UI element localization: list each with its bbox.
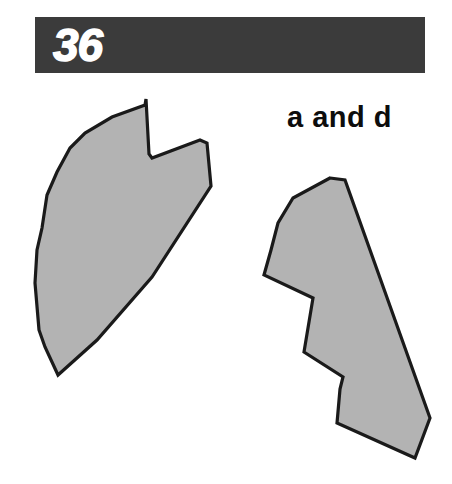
left-fan-shape <box>35 99 211 375</box>
puzzle-page: 36 a and d <box>0 0 452 484</box>
right-arrow-shape <box>264 178 430 458</box>
shape-canvas <box>0 0 452 484</box>
